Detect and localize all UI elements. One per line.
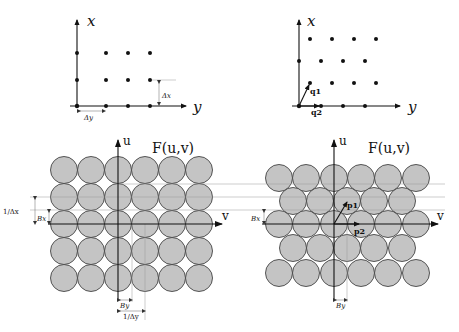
v-axis-label: v	[221, 209, 229, 223]
bx-label: Bx	[36, 215, 46, 223]
q1-label: q1	[310, 86, 321, 96]
x-axis-label: x	[87, 12, 96, 30]
x-axis-label: x	[307, 12, 316, 30]
hex-sampling-lattice: x y q1 q2	[292, 12, 417, 117]
inv-delta-y-label: 1/Δy	[123, 313, 139, 321]
sample-points	[297, 37, 378, 108]
spectrum-title: F(u,v)	[152, 140, 194, 156]
y-axis-label: y	[192, 98, 202, 116]
p1-label: p1	[347, 200, 358, 210]
u-axis-label: u	[339, 134, 347, 148]
by-label: By	[119, 302, 130, 310]
delta-y-label: Δy	[83, 114, 94, 122]
sampling-diagram: x y Δx Δy x y q1 q2	[0, 0, 459, 332]
rect-sampling-lattice: x y Δx Δy	[70, 12, 202, 122]
v-axis-label: v	[436, 209, 444, 223]
inv-delta-x-label: 1/Δx	[3, 208, 19, 216]
by-label: By	[335, 302, 346, 310]
q1-vector	[299, 85, 309, 106]
q2-label: q2	[311, 107, 322, 117]
spectrum-title: F(u,v)	[368, 140, 410, 156]
spectrum-replicas	[266, 165, 430, 287]
rect-spectrum: u v F(u,v) 1/Δx Bx By 1/Δy	[3, 134, 230, 321]
bx-label: Bx	[250, 215, 260, 223]
u-axis-label: u	[123, 134, 131, 148]
delta-x-label: Δx	[161, 92, 171, 100]
hex-spectrum: u v F(u,v) p1 p2 Bx By	[230, 134, 445, 310]
sample-points	[75, 51, 152, 108]
p2-label: p2	[354, 226, 365, 236]
y-axis-label: y	[407, 98, 417, 116]
